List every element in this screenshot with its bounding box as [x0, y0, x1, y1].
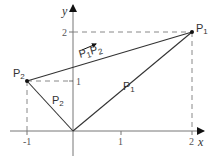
point-p1-label-sub: 1: [203, 27, 208, 36]
vector-op1-label-sub: 1: [130, 85, 135, 94]
y-tick-label-1: 1: [76, 76, 81, 87]
point-p2-label-main: P: [13, 67, 20, 79]
vector-op2-label-sub: 2: [59, 99, 64, 108]
x-tick-label-neg1: -1: [23, 136, 31, 147]
vector-op1-label: P1: [123, 80, 135, 94]
vector-p1p2: [27, 32, 192, 81]
point-p1: [190, 30, 194, 34]
y-tick-label-2: 2: [62, 27, 67, 38]
y-axis-label: y: [61, 4, 68, 18]
point-p2-label: P2: [13, 67, 25, 81]
vector-diagram: y x -1 1 2 1 2 P1 P2 P1P2 P1 P2: [0, 0, 208, 167]
point-p1-label: P1: [196, 22, 208, 36]
vector-op1-label-main: P: [123, 80, 130, 92]
vector-op2: [27, 81, 73, 131]
x-tick-label-1: 1: [118, 136, 123, 147]
vectors: [27, 32, 192, 131]
vector-op2-label: P2: [52, 94, 64, 108]
vector-op2-label-main: P: [52, 94, 59, 106]
x-axis-label: x: [197, 135, 204, 149]
point-p2: [25, 79, 29, 83]
x-tick-label-2: 2: [189, 136, 194, 147]
point-p2-label-sub: 2: [20, 72, 25, 81]
guide-lines: [27, 32, 192, 131]
vector-p1p2-label-b-sub: 2: [97, 47, 104, 57]
point-p1-label-main: P: [196, 22, 203, 34]
